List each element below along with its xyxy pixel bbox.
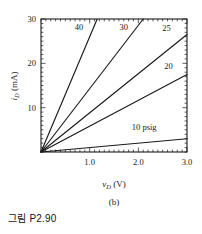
figure-p2-90: 4030252010 psig 1.02.03.0 102030 vD (V) … <box>0 0 202 234</box>
data-curves <box>41 19 187 152</box>
x-tick-label: 2.0 <box>133 157 144 167</box>
curve-label-10-psig: 10 psig <box>132 122 158 132</box>
x-tick-label: 1.0 <box>84 157 95 167</box>
y-axis-title: iD (mA) <box>9 72 20 101</box>
svg-text:iD (mA): iD (mA) <box>9 72 20 101</box>
curve-label-30: 30 <box>119 22 128 32</box>
y-tick-label: 10 <box>28 103 37 113</box>
y-tick-label: 20 <box>28 58 37 68</box>
figure-caption: 그림 P2.90 <box>8 210 57 225</box>
y-tick-label: 30 <box>28 14 37 24</box>
x-axis-title: vD (V) <box>102 179 125 190</box>
curve-30 <box>41 19 143 152</box>
x-tick-label: 3.0 <box>182 157 193 167</box>
subfigure-label: (b) <box>109 197 120 207</box>
svg-text:vD (V): vD (V) <box>102 179 125 190</box>
y-tick-labels: 102030 <box>28 14 37 113</box>
curve-label-40: 40 <box>75 22 84 32</box>
curve-25 <box>41 35 187 152</box>
chart-svg: 4030252010 psig 1.02.03.0 102030 vD (V) … <box>0 0 202 234</box>
curve-label-20: 20 <box>164 61 173 71</box>
x-tick-labels: 1.02.03.0 <box>84 157 192 167</box>
curve-label-25: 25 <box>162 23 171 33</box>
curve-40 <box>41 19 97 152</box>
